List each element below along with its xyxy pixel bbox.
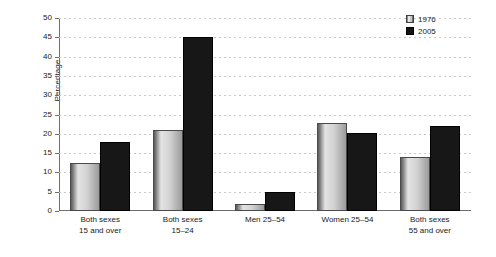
y-axis-tick-label: 40 [43,52,52,61]
legend: 1976 2005 [406,13,436,37]
x-axis-category-label: Both sexes15–24 [141,215,223,236]
bar-1976-2 [235,204,265,211]
bar-1976-3 [317,123,347,211]
y-axis-tick-label: 35 [43,71,52,80]
bar-2005-4 [430,126,460,211]
x-axis-category-line: 15–24 [141,226,223,237]
bar-group [224,18,306,211]
legend-swatch-2005-icon [406,27,414,35]
x-axis-category-line: Both sexes [59,215,141,226]
bar-group [59,18,141,211]
x-axis-category-line: Both sexes [141,215,223,226]
bar-2005-3 [347,133,377,211]
y-axis-tick-label: 45 [43,32,52,41]
x-axis-category-line: 15 and over [59,226,141,237]
y-axis-tick-label: 15 [43,148,52,157]
bar-2005-0 [100,142,130,211]
x-axis-category-label: Women 25–54 [306,215,388,236]
bar-group [306,18,388,211]
bar-1976-0 [70,163,100,211]
x-axis-category-line: Both sexes [389,215,471,226]
bar-1976-1 [153,130,183,211]
legend-item-2005: 2005 [406,25,436,37]
y-axis-tick [55,211,59,212]
bar-group [141,18,223,211]
legend-item-1976: 1976 [406,13,436,25]
y-axis-tick-label: 0 [48,206,52,215]
x-axis-category-line: 55 and over [389,226,471,237]
y-axis-tick-label: 5 [48,187,52,196]
y-axis-tick-label: 25 [43,110,52,119]
x-axis-category-line: Men 25–54 [224,215,306,226]
x-axis-category-label: Men 25–54 [224,215,306,236]
legend-swatch-1976-icon [406,15,414,23]
bar-groups [59,18,471,211]
legend-label-2005: 2005 [418,27,436,36]
x-axis-labels: Both sexes15 and overBoth sexes15–24Men … [59,215,471,236]
bar-group [389,18,471,211]
x-axis-category-line: Women 25–54 [306,215,388,226]
y-axis-tick-label: 10 [43,167,52,176]
bar-2005-2 [265,192,295,211]
bar-chart: Percentage 50454035302520151050 Both sex… [0,0,496,257]
y-axis-tick-label: 30 [43,90,52,99]
y-axis-tick-label: 50 [43,13,52,22]
bar-2005-1 [183,37,213,211]
bar-1976-4 [400,157,430,211]
y-axis-tick-label: 20 [43,129,52,138]
x-axis-category-label: Both sexes55 and over [389,215,471,236]
legend-label-1976: 1976 [418,15,436,24]
x-axis-category-label: Both sexes15 and over [59,215,141,236]
plot-area: 50454035302520151050 [59,18,471,211]
gridline [59,211,471,212]
